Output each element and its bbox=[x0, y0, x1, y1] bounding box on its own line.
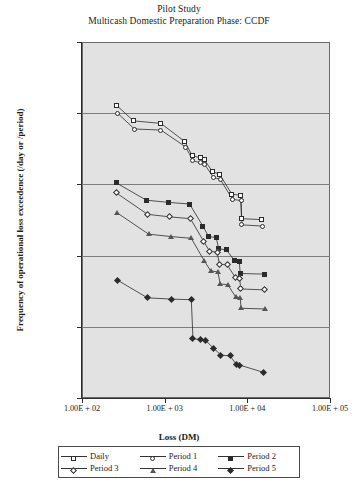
legend-label: Period 4 bbox=[169, 463, 198, 473]
data-point bbox=[188, 235, 194, 240]
data-point bbox=[168, 234, 174, 239]
legend-label: Period 1 bbox=[169, 451, 198, 461]
x-tick-mark bbox=[165, 398, 166, 403]
data-point bbox=[146, 231, 152, 236]
legend-marker-triangle-open-icon bbox=[140, 463, 166, 473]
plot-area: 1.00E + 011.00E + 001.00E − 011.00E − 02… bbox=[82, 42, 330, 398]
data-point bbox=[115, 111, 120, 116]
chart-page: Pilot Study Multicash Domestic Preparati… bbox=[0, 0, 358, 487]
legend-item-period-4[interactable]: Period 4 bbox=[140, 462, 219, 474]
data-point bbox=[262, 272, 267, 277]
legend-label: Period 5 bbox=[247, 463, 276, 473]
data-point bbox=[200, 224, 205, 229]
legend-label: Period 2 bbox=[247, 451, 276, 461]
data-point bbox=[217, 281, 223, 286]
legend-item-period-2[interactable]: Period 2 bbox=[218, 450, 297, 462]
data-point bbox=[132, 127, 137, 132]
legend-marker-square-open-icon bbox=[61, 451, 87, 461]
data-point bbox=[238, 305, 244, 310]
data-point bbox=[182, 139, 187, 144]
legend-item-period-5[interactable]: Period 5 bbox=[218, 462, 297, 474]
data-point bbox=[260, 224, 265, 229]
legend-marker-circle-open-icon bbox=[140, 451, 166, 461]
data-point bbox=[158, 121, 163, 126]
legend-label: Period 3 bbox=[90, 463, 119, 473]
data-point bbox=[114, 210, 120, 215]
series-lines bbox=[82, 42, 330, 398]
x-tick-label: 1.00E + 02 bbox=[47, 404, 117, 413]
x-axis-line bbox=[81, 398, 331, 399]
data-point bbox=[166, 200, 171, 205]
y-tick-mark bbox=[77, 42, 82, 43]
legend-item-daily[interactable]: Daily bbox=[61, 450, 140, 462]
data-point bbox=[114, 180, 119, 185]
legend-row: Period 3 Period 4 Period 5 bbox=[61, 462, 297, 474]
legend-marker-square-filled-icon bbox=[218, 451, 244, 461]
x-axis-title: Loss (DM) bbox=[0, 432, 358, 442]
data-point bbox=[229, 192, 234, 197]
data-point bbox=[187, 202, 192, 207]
data-point bbox=[214, 235, 219, 240]
data-point bbox=[218, 177, 223, 182]
data-point bbox=[237, 295, 243, 300]
x-tick-mark bbox=[82, 398, 83, 403]
chart-title: Pilot Study Multicash Domestic Preparati… bbox=[0, 4, 358, 28]
data-point bbox=[217, 172, 222, 177]
legend-row: Daily Period 1 Period 2 bbox=[61, 450, 297, 462]
data-point bbox=[206, 234, 211, 239]
chart-title-line-2: Multicash Domestic Preparation Phase: CC… bbox=[0, 16, 358, 28]
data-point bbox=[239, 216, 244, 221]
data-point bbox=[237, 259, 242, 264]
legend-marker-diamond-filled-icon bbox=[218, 463, 244, 473]
data-point bbox=[131, 118, 136, 123]
legend-marker-diamond-open-icon bbox=[61, 463, 87, 473]
y-tick-mark bbox=[77, 184, 82, 185]
x-tick-mark bbox=[247, 398, 248, 403]
x-tick-label: 1.00E + 05 bbox=[295, 404, 358, 413]
data-point bbox=[262, 306, 268, 311]
chart-title-line-1: Pilot Study bbox=[0, 4, 358, 16]
data-point bbox=[114, 103, 119, 108]
legend: Daily Period 1 Period 2 Period 3 Period … bbox=[58, 446, 300, 478]
data-point bbox=[211, 175, 216, 180]
y-tick-mark bbox=[77, 327, 82, 328]
data-point bbox=[158, 128, 163, 133]
data-point bbox=[183, 145, 188, 150]
data-point bbox=[225, 282, 231, 287]
data-point bbox=[230, 197, 235, 202]
x-tick-mark bbox=[330, 398, 331, 403]
legend-item-period-1[interactable]: Period 1 bbox=[140, 450, 219, 462]
legend-label: Daily bbox=[90, 451, 109, 461]
y-axis-title: Frequency of operational loss exceedence… bbox=[15, 50, 25, 390]
legend-item-period-3[interactable]: Period 3 bbox=[61, 462, 140, 474]
data-point bbox=[224, 247, 229, 252]
data-point bbox=[259, 217, 264, 222]
data-point bbox=[201, 258, 207, 263]
x-tick-label: 1.00E + 03 bbox=[130, 404, 200, 413]
data-point bbox=[239, 198, 244, 203]
data-point bbox=[215, 269, 221, 274]
data-point bbox=[190, 153, 195, 158]
data-point bbox=[238, 193, 243, 198]
data-point bbox=[144, 198, 149, 203]
x-tick-label: 1.00E + 04 bbox=[212, 404, 282, 413]
data-point bbox=[208, 268, 214, 273]
y-tick-mark bbox=[77, 113, 82, 114]
data-point bbox=[210, 169, 215, 174]
y-tick-mark bbox=[77, 256, 82, 257]
